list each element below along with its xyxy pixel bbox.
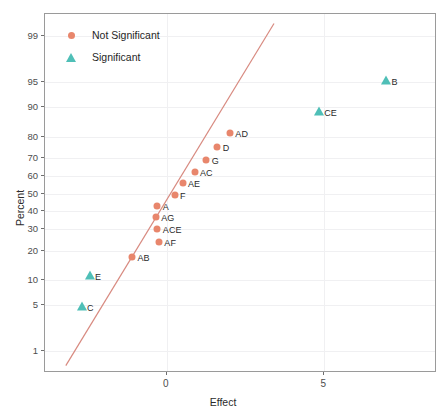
data-point-label: AF <box>164 238 176 248</box>
y-tick-label: 20 <box>27 244 38 255</box>
y-tick-label: 80 <box>27 130 38 141</box>
data-point-label: ACE <box>163 225 182 235</box>
legend-label: Significant <box>92 51 140 63</box>
data-point-marker <box>226 129 233 136</box>
data-point-label: B <box>391 77 397 87</box>
data-point-marker <box>203 157 210 164</box>
data-point-marker <box>171 191 178 198</box>
data-point-label: D <box>223 143 230 153</box>
x-tick-mark <box>166 372 167 375</box>
legend-item[interactable]: Significant <box>58 46 160 68</box>
data-point-label: AC <box>200 168 213 178</box>
normal-probability-plot: Percent 151020304050607080909599 05 ABAF… <box>0 0 446 415</box>
y-tick-label: 99 <box>27 30 38 41</box>
data-point-label: F <box>180 191 186 201</box>
legend-item[interactable]: Not Significant <box>58 24 160 46</box>
data-point-marker <box>85 271 95 280</box>
circle-marker-icon <box>58 32 84 39</box>
y-tick-label: 40 <box>27 204 38 215</box>
y-axis-title: Percent <box>14 189 26 225</box>
y-tick-label: 70 <box>27 152 38 163</box>
y-tick-label: 1 <box>33 345 38 356</box>
data-point-marker <box>179 180 186 187</box>
y-tick-label: 60 <box>27 170 38 181</box>
data-point-label: AD <box>235 129 248 139</box>
data-point-label: C <box>87 303 94 313</box>
legend-swatch <box>68 32 75 39</box>
data-point-label: AE <box>188 179 200 189</box>
data-point-label: A <box>163 202 169 212</box>
data-point-marker <box>152 213 159 220</box>
legend-label: Not Significant <box>92 29 160 41</box>
data-point-marker <box>155 238 162 245</box>
data-point-marker <box>154 202 161 209</box>
data-point-marker <box>314 106 324 115</box>
data-point-label: AG <box>161 213 174 223</box>
data-point-label: CE <box>324 108 337 118</box>
data-point-marker <box>191 169 198 176</box>
data-point-marker <box>129 254 136 261</box>
data-point-marker <box>154 226 161 233</box>
x-tick-label: 0 <box>163 378 169 389</box>
y-tick-label: 5 <box>33 298 38 309</box>
y-tick-label: 10 <box>27 274 38 285</box>
legend: Not SignificantSignificant <box>58 24 160 68</box>
y-tick-label: 90 <box>27 100 38 111</box>
y-tick-label: 30 <box>27 223 38 234</box>
x-axis-title: Effect <box>0 396 446 408</box>
x-tick-mark <box>323 372 324 375</box>
y-tick-label: 95 <box>27 76 38 87</box>
data-point-label: E <box>95 272 101 282</box>
data-point-label: AB <box>138 253 150 263</box>
data-point-marker <box>77 301 87 310</box>
triangle-marker-icon <box>58 53 84 62</box>
data-point-marker <box>214 144 221 151</box>
x-tick-label: 5 <box>321 378 327 389</box>
legend-swatch <box>66 53 76 62</box>
data-point-marker <box>381 75 391 84</box>
y-tick-label: 50 <box>27 187 38 198</box>
data-point-label: G <box>212 156 219 166</box>
